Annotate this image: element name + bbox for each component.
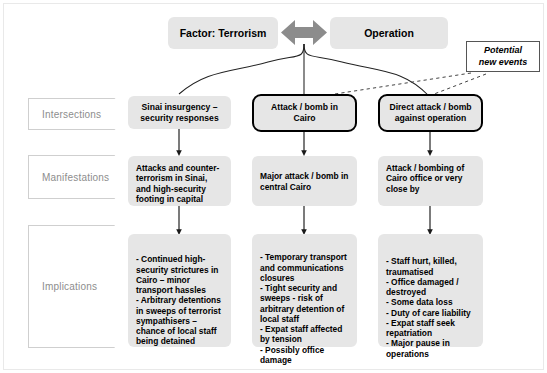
row-label-manifestations: Manifestations bbox=[28, 155, 131, 199]
row-label-intersections-text: Intersections bbox=[42, 109, 101, 120]
manifestation-box-operation[interactable]: Attack / bombing of Cairo office or very… bbox=[378, 156, 483, 206]
intersection-box-operation-text: Direct attack / bomb against operation bbox=[385, 102, 476, 123]
potential-new-events-callout[interactable]: Potential new events bbox=[466, 41, 540, 72]
operation-label: Operation bbox=[364, 27, 414, 40]
diagram-canvas: Factor: Terrorism Operation Potential ne… bbox=[0, 0, 547, 373]
intersection-box-sinai[interactable]: Sinai insurgency – security responses bbox=[128, 96, 231, 129]
callout-line-1: Potential bbox=[484, 45, 522, 56]
row-label-manifestations-text: Manifestations bbox=[42, 172, 109, 183]
implications-box-sinai[interactable]: - Continued high-security strictures in … bbox=[128, 234, 231, 347]
operation-box[interactable]: Operation bbox=[330, 17, 448, 49]
factor-terrorism-label: Factor: Terrorism bbox=[180, 27, 267, 40]
manifestation-box-operation-text: Attack / bombing of Cairo office or very… bbox=[386, 163, 464, 194]
implications-box-cairo-text: - Temporary transport and communications… bbox=[260, 252, 347, 365]
callout-line-2: new events bbox=[479, 57, 528, 68]
row-label-implications-text: Implications bbox=[42, 281, 97, 292]
intersection-box-cairo[interactable]: Attack / bomb in Cairo bbox=[252, 94, 357, 132]
manifestation-box-sinai-text: Attacks and counter-terrorism in Sinai, … bbox=[136, 163, 219, 204]
intersection-box-sinai-text: Sinai insurgency – security responses bbox=[133, 102, 226, 123]
implications-box-operation-text: - Staff hurt, killed, traumatised - Offi… bbox=[386, 256, 471, 358]
implications-box-sinai-text: - Continued high-security strictures in … bbox=[136, 254, 221, 346]
manifestation-box-cairo-text: Major attack / bomb in central Cairo bbox=[260, 171, 349, 192]
row-label-implications: Implications bbox=[28, 225, 131, 348]
row-label-intersections: Intersections bbox=[28, 98, 131, 130]
intersection-box-cairo-text: Attack / bomb in Cairo bbox=[259, 102, 350, 123]
intersection-box-operation[interactable]: Direct attack / bomb against operation bbox=[378, 94, 483, 132]
double-headed-arrow-icon bbox=[281, 20, 327, 45]
manifestation-box-sinai[interactable]: Attacks and counter-terrorism in Sinai, … bbox=[128, 156, 231, 206]
implications-box-cairo[interactable]: - Temporary transport and communications… bbox=[252, 234, 357, 347]
factor-terrorism-box[interactable]: Factor: Terrorism bbox=[168, 17, 278, 49]
implications-box-operation[interactable]: - Staff hurt, killed, traumatised - Offi… bbox=[378, 234, 483, 347]
manifestation-box-cairo[interactable]: Major attack / bomb in central Cairo bbox=[252, 156, 357, 206]
